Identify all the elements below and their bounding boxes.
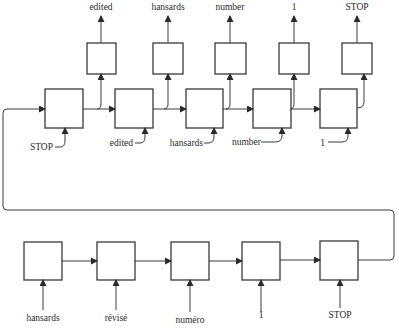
output-label-1: edited xyxy=(89,2,112,12)
encoder-input-label-3: numéro xyxy=(175,315,204,325)
encoder-input-label-4: 1 xyxy=(259,310,264,320)
decoder-input-arrow-4 xyxy=(261,128,282,142)
seq2seq-diagram: edited hansards number 1 STOP STOP edite… xyxy=(0,0,399,332)
decoder-to-output-1 xyxy=(97,74,101,109)
encoder-box-1 xyxy=(24,242,62,280)
decoder-input-label-5: 1 xyxy=(320,138,325,148)
output-label-3: number xyxy=(215,2,245,12)
decoder-input-label-1: STOP xyxy=(30,142,53,152)
output-box-5 xyxy=(342,43,372,74)
decoder-input-arrow-2 xyxy=(135,128,145,143)
decoder-box-1 xyxy=(45,89,83,128)
decoder-to-output-2 xyxy=(164,74,168,109)
output-label-4: 1 xyxy=(292,2,297,12)
context-vector-connector xyxy=(3,109,394,260)
output-label-2: hansards xyxy=(151,2,185,12)
output-box-3 xyxy=(215,43,246,74)
decoder-input-arrow-5 xyxy=(328,128,348,142)
encoder-box-3 xyxy=(171,242,209,280)
encoder-layer: hansards révisé numéro 1 STOP xyxy=(24,241,358,325)
encoder-input-label-5: STOP xyxy=(328,310,351,320)
decoder-input-label-4: number xyxy=(232,137,262,147)
output-box-4 xyxy=(279,43,309,74)
output-box-2 xyxy=(153,43,183,74)
encoder-box-2 xyxy=(97,242,135,280)
decoder-box-3 xyxy=(186,89,223,128)
decoder-box-4 xyxy=(253,89,291,128)
encoder-input-label-2: révisé xyxy=(105,313,128,323)
decoder-input-arrow-3 xyxy=(204,128,214,143)
decoder-to-output-3 xyxy=(226,74,230,109)
encoder-box-4 xyxy=(242,242,280,280)
decoder-input-label-3: hansards xyxy=(170,138,204,148)
output-label-5: STOP xyxy=(345,2,368,12)
decoder-box-5 xyxy=(320,89,357,128)
output-box-1 xyxy=(87,43,116,74)
decoder-input-label-2: edited xyxy=(110,138,133,148)
decoder-input-arrow-1 xyxy=(55,128,65,147)
decoder-box-2 xyxy=(115,89,153,128)
decoder-to-output-5 xyxy=(357,74,364,108)
decoder-layer: STOP edited hansards number 1 xyxy=(30,74,364,152)
decoder-output-layer: edited hansards number 1 STOP xyxy=(87,2,372,74)
encoder-input-label-1: hansards xyxy=(26,313,60,323)
encoder-box-5 xyxy=(320,241,358,280)
